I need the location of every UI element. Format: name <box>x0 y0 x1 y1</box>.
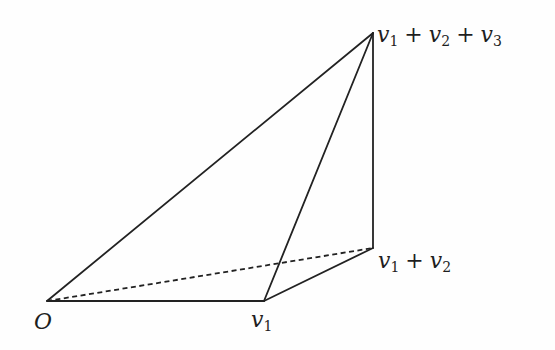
label-v1-sub: 1 <box>263 318 272 334</box>
plus-operator: + <box>456 22 474 47</box>
term-base: v <box>429 22 441 47</box>
term-sub: 1 <box>390 259 399 275</box>
term-sub: 1 <box>389 33 398 49</box>
term-base: v <box>377 22 389 47</box>
label-v1-base: v <box>251 307 263 332</box>
edge-o-v1v2-dashed <box>47 248 373 301</box>
simplex-drawing <box>0 0 555 350</box>
plus-operator: + <box>405 248 423 273</box>
edge-v1-apex <box>264 33 373 301</box>
edge-o-apex <box>47 33 373 301</box>
term-base: v <box>378 248 390 273</box>
plus-operator: + <box>404 22 422 47</box>
label-v1-plus-v2: v1+v2 <box>378 250 451 272</box>
label-origin-text: O <box>34 309 52 334</box>
label-origin: O <box>34 311 52 333</box>
term-sub: 2 <box>442 259 451 275</box>
term-base: v <box>481 22 493 47</box>
label-v1: v1 <box>251 309 272 331</box>
term-sub: 3 <box>493 33 502 49</box>
term-base: v <box>430 248 442 273</box>
term-sub: 2 <box>441 33 450 49</box>
diagram-canvas: O v1 v1+v2 v1+v2+v3 <box>0 0 555 350</box>
label-v1-plus-v2-plus-v3: v1+v2+v3 <box>377 24 502 46</box>
